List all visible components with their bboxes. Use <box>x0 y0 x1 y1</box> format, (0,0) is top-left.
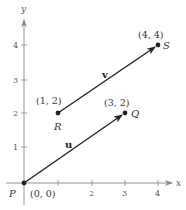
point-q-name: Q <box>131 108 139 119</box>
point-p-name: P <box>8 188 16 199</box>
y-axis: y <box>20 4 27 205</box>
x-tick-2: 2 <box>89 189 94 198</box>
vector-u: u <box>24 115 122 183</box>
x-tick-3: 3 <box>122 189 127 198</box>
y-axis-label: y <box>20 4 27 14</box>
y-tick-2: 2 <box>13 109 18 118</box>
point-q-coords: (3, 2) <box>104 97 130 108</box>
y-ticks: 1 2 3 4 <box>13 41 27 152</box>
point-s-name: S <box>163 40 170 51</box>
point-r: R (1, 2) <box>36 95 62 132</box>
y-tick-3: 3 <box>13 76 18 85</box>
y-tick-4: 4 <box>13 41 18 50</box>
x-axis-label: x <box>176 178 181 188</box>
point-r-name: R <box>53 121 62 132</box>
x-tick-4: 4 <box>155 189 160 198</box>
y-tick-1: 1 <box>13 143 18 152</box>
point-s-coords: (4, 4) <box>138 29 164 40</box>
point-p-coords: (0, 0) <box>30 188 56 199</box>
point-r-coords: (1, 2) <box>36 95 62 106</box>
vector-u-label: u <box>65 139 72 150</box>
x-axis: x <box>6 178 181 188</box>
vector-diagram: x y 2 3 4 1 2 3 4 u v P (0, 0) <box>0 0 186 210</box>
vector-v-label: v <box>101 69 109 80</box>
